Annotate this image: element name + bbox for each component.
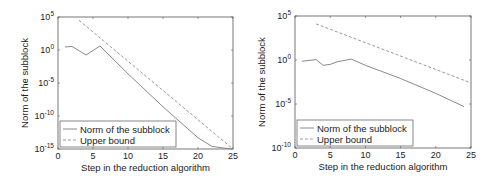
x-tick-label: 10 <box>360 150 370 160</box>
y-tick-label: 105 <box>277 9 291 21</box>
x-tick-label: 0 <box>292 150 297 160</box>
x-tick-label: 5 <box>328 150 333 160</box>
y-tick-label: 100 <box>277 53 291 65</box>
x-tick-label: 25 <box>228 151 238 161</box>
legend-entry: Upper bound <box>80 135 135 146</box>
legend-entry: Norm of the subblock <box>80 124 170 135</box>
norm-line <box>302 59 464 107</box>
legend: Norm of the subblockUpper bound <box>60 121 176 147</box>
x-tick-label: 20 <box>193 151 203 161</box>
upper-bound-line <box>316 24 471 83</box>
x-tick-label: 0 <box>55 151 60 161</box>
x-tick-label: 15 <box>396 150 406 160</box>
x-tick-label: 10 <box>123 151 133 161</box>
legend: Norm of the subblockUpper bound <box>297 120 413 146</box>
y-axis-label: Norm of the subblock <box>256 37 267 127</box>
x-tick-label: 15 <box>158 151 168 161</box>
legend-entry: Norm of the subblock <box>317 123 407 134</box>
x-axis-label: Step in the reduction algorithm <box>81 162 210 173</box>
y-tick-label: 100 <box>40 43 54 55</box>
y-tick-label: 10-5 <box>38 76 54 88</box>
y-tick-label: 10-10 <box>272 141 292 153</box>
figure: 051015202510510010-510-1010-15Step in th… <box>0 0 498 183</box>
x-tick-label: 5 <box>90 151 95 161</box>
legend-entry: Upper bound <box>317 134 372 145</box>
x-tick-label: 25 <box>466 150 476 160</box>
chart-1: 051015202510510010-510-1010-15Step in th… <box>19 10 238 173</box>
y-tick-label: 10-5 <box>275 97 291 109</box>
y-tick-label: 10-15 <box>35 142 55 154</box>
y-tick-label: 10-10 <box>35 109 55 121</box>
chart-2: 051015202510510010-510-10Step in the red… <box>256 9 476 172</box>
y-axis-label: Norm of the subblock <box>19 38 30 128</box>
x-axis-label: Step in the reduction algorithm <box>319 161 448 172</box>
y-tick-label: 105 <box>40 10 54 22</box>
x-tick-label: 20 <box>431 150 441 160</box>
